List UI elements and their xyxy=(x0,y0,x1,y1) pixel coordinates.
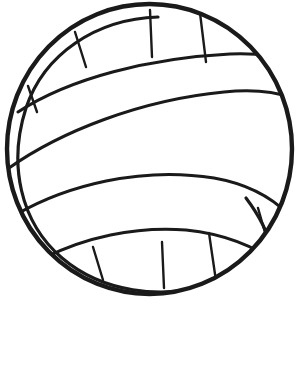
volleyball-illustration xyxy=(0,0,305,385)
page-canvas xyxy=(0,0,305,385)
